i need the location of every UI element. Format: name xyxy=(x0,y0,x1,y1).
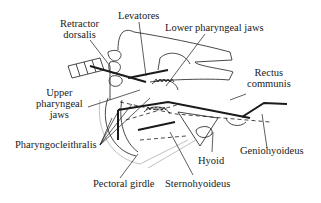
label-pharyngocleithralis: Pharyngocleithralis xyxy=(15,139,97,150)
label-line: Retractor xyxy=(60,18,99,29)
label-line: Rectus xyxy=(247,67,291,78)
label-retractor-dorsalis: Retractor dorsalis xyxy=(60,18,99,40)
label-line: dorsalis xyxy=(60,29,99,40)
label-line: jaws xyxy=(36,109,83,120)
label-rectus-communis: Rectus communis xyxy=(247,67,291,89)
label-hyoid: Hyoid xyxy=(198,155,224,166)
label-lower-pharyngeal-jaws: Lower pharyngeal jaws xyxy=(165,22,264,33)
label-upper-pharyngeal-jaws: Upper pharyngeal jaws xyxy=(36,87,83,120)
label-levatores: Levatores xyxy=(118,10,159,21)
diagram-canvas: Retractor dorsalis Levatores Lower phary… xyxy=(0,0,321,203)
label-sternohyoideus: Sternohyoideus xyxy=(165,178,230,189)
label-geniohyoideus: Geniohyoideus xyxy=(240,145,304,156)
label-pectoral-girdle: Pectoral girdle xyxy=(93,178,155,189)
label-line: Upper xyxy=(36,87,83,98)
label-line: communis xyxy=(247,78,291,89)
label-line: pharyngeal xyxy=(36,98,83,109)
